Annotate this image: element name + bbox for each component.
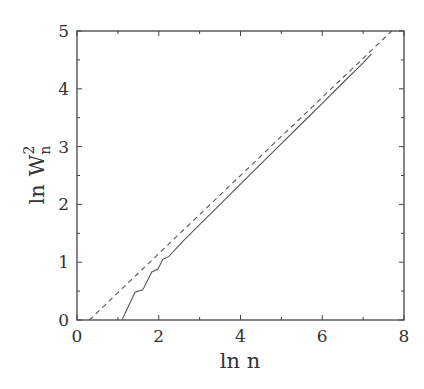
- chart: 02468 012345 ln n lnW2n: [0, 0, 424, 389]
- y-axis-ticks: 012345: [58, 21, 404, 330]
- series-simulation: [122, 54, 371, 320]
- x-tick-label: 4: [235, 326, 246, 346]
- x-axis-ticks: 02468: [72, 31, 410, 346]
- y-tick-label: 3: [58, 137, 69, 157]
- y-tick-label: 5: [58, 21, 69, 41]
- y-tick-label: 4: [58, 79, 69, 99]
- x-tick-label: 6: [317, 326, 328, 346]
- x-tick-label: 2: [153, 326, 164, 346]
- x-axis-label: ln n: [220, 349, 260, 373]
- x-tick-label: 0: [72, 326, 83, 346]
- y-tick-label: 2: [58, 194, 69, 214]
- y-tick-label: 1: [58, 252, 69, 272]
- plot-area: [77, 31, 404, 320]
- y-axis-label: lnW2n: [21, 146, 53, 205]
- x-tick-label: 8: [399, 326, 410, 346]
- series-fit: [89, 31, 391, 320]
- svg-text:lnW2n: lnW2n: [21, 146, 53, 205]
- y-tick-label: 0: [58, 310, 69, 330]
